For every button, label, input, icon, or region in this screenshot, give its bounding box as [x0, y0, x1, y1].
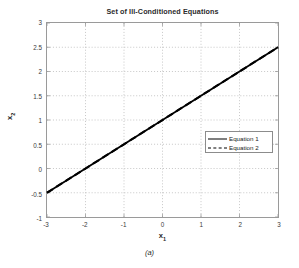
y-tick-label: 1	[16, 117, 42, 124]
y-tick-label: 3	[16, 19, 42, 26]
x-tick-label: -2	[82, 221, 88, 228]
x-tick-label: 3	[277, 221, 281, 228]
y-tick-label: 2.5	[16, 43, 42, 50]
y-tick-label: -1	[16, 215, 42, 222]
legend-label: Equation 2	[229, 143, 259, 152]
y-tick-label: 1.5	[16, 92, 42, 99]
x-tick-label: 0	[161, 221, 165, 228]
data-series-layer	[47, 23, 278, 217]
y-tick-label: 0.5	[16, 141, 42, 148]
legend-label: Equation 1	[229, 134, 259, 143]
x-tick-label: 1	[200, 221, 204, 228]
chart-legend[interactable]: Equation 1Equation 2	[205, 131, 273, 153]
y-tick-label: -0.5	[16, 190, 42, 197]
plot-area	[46, 22, 279, 218]
figure-panel: Set of Ill-Conditioned Equations -1-0.50…	[0, 0, 299, 268]
legend-item-1[interactable]: Equation 1	[206, 134, 272, 143]
x-tick-label: -3	[43, 221, 49, 228]
x-tick-label: -1	[121, 221, 127, 228]
x-axis-label-subscript: 1	[163, 236, 166, 242]
legend-line-sample-dashed	[208, 144, 227, 151]
y-axis-label: x2	[5, 113, 16, 120]
x-tick-label: 2	[238, 221, 242, 228]
legend-line-sample-solid	[208, 135, 227, 142]
y-axis-label-base: x	[5, 116, 14, 120]
y-tick-label: 2	[16, 68, 42, 75]
y-tick-label: 0	[16, 166, 42, 173]
y-axis-label-subscript: 2	[10, 113, 16, 116]
legend-item-2[interactable]: Equation 2	[206, 143, 272, 152]
figure-caption: (a)	[0, 248, 299, 257]
x-axis-label: x1	[46, 231, 279, 242]
chart-title: Set of Ill-Conditioned Equations	[46, 7, 279, 16]
